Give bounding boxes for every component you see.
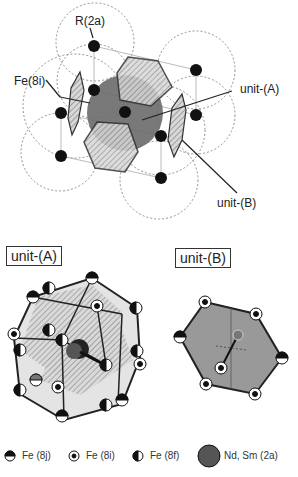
fe-8i-icon xyxy=(69,451,79,461)
label-unit-a: unit-(A) xyxy=(240,82,279,96)
unit-a-title: unit-(A) xyxy=(6,246,62,266)
unit-b-structure xyxy=(180,302,282,394)
crystal-structure-diagram xyxy=(0,0,298,477)
legend-fe-8f: Fe (8f) xyxy=(150,450,179,461)
label-r2a: R(2a) xyxy=(75,14,105,28)
legend-fe-8j: Fe (8j) xyxy=(22,450,51,461)
fe-8f-icon xyxy=(133,451,143,461)
legend-nd-sm: Nd, Sm (2a) xyxy=(224,450,278,461)
top-structure xyxy=(21,3,237,219)
label-unit-b: unit-(B) xyxy=(217,196,256,210)
nd-sm-icon xyxy=(198,445,220,467)
legend-fe-8i: Fe (8i) xyxy=(86,450,115,461)
fe-8j-icon xyxy=(5,451,15,461)
hexagon-left xyxy=(68,72,84,135)
hexagon-right xyxy=(168,94,186,157)
label-fe8i: Fe(8i) xyxy=(14,74,45,88)
hexagon-bottom xyxy=(84,122,138,172)
hexagon-top xyxy=(117,57,172,106)
unit-b-title: unit-(B) xyxy=(175,248,231,268)
